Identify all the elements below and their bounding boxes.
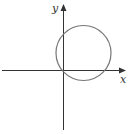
x-axis-label: x [120, 73, 127, 86]
circle-curve [56, 26, 111, 81]
y-axis-arrow-icon [61, 4, 67, 11]
coordinate-diagram: y x [0, 0, 132, 134]
y-axis-label: y [51, 2, 59, 15]
